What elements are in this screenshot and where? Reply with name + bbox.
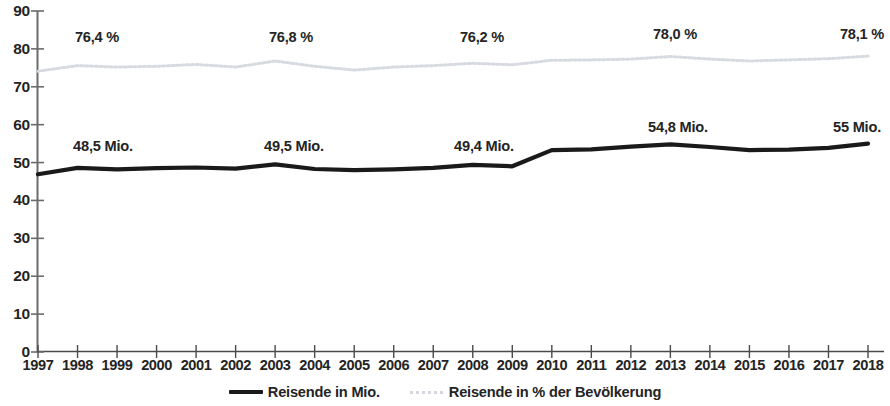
data-label: 49,5 Mio. [264, 139, 324, 154]
x-axis-tick-label: 2009 [497, 358, 528, 373]
y-axis-tick-label: 10 [4, 306, 30, 322]
y-axis-tick-label: 70 [4, 79, 30, 95]
dotted-line-marker-icon [410, 391, 444, 394]
x-axis-tick-label: 2015 [734, 358, 765, 373]
x-axis-tick-label: 2010 [536, 358, 567, 373]
x-axis-tick-label: 2007 [418, 358, 449, 373]
y-axis-tick-label: 50 [4, 155, 30, 171]
y-axis-tick-label: 20 [4, 268, 30, 284]
y-axis-tick-label: 90 [4, 3, 30, 19]
x-axis-tick-label: 1999 [102, 358, 133, 373]
x-axis-tick-label: 2013 [655, 358, 686, 373]
y-axis-tick-label: 40 [4, 192, 30, 208]
x-axis-tick-label: 2000 [141, 358, 172, 373]
x-axis-tick-label: 2003 [260, 358, 291, 373]
x-axis-tick-label: 2006 [378, 358, 409, 373]
x-axis-tick-label: 2008 [457, 358, 488, 373]
data-label: 76,4 % [75, 30, 119, 45]
x-axis-tick-label: 1997 [23, 358, 54, 373]
data-label: 78,0 % [653, 27, 697, 42]
x-axis-tick-label: 2001 [181, 358, 212, 373]
x-axis-tick-label: 2016 [774, 358, 805, 373]
x-axis-tick-label: 2018 [853, 358, 884, 373]
data-label: 54,8 Mio. [648, 120, 708, 135]
legend-item-label: Reisende in % der Bevölkerung [448, 384, 661, 400]
data-label: 76,8 % [269, 30, 313, 45]
legend-item-label: Reisende in Mio. [267, 384, 380, 400]
x-axis-tick-label: 2005 [339, 358, 370, 373]
solid-line-marker-icon [229, 390, 263, 394]
data-label: 55 Mio. [833, 120, 881, 135]
series-line-percent [38, 56, 868, 71]
x-axis-tick-label: 2017 [813, 358, 844, 373]
legend-item-millions[interactable]: Reisende in Mio. [229, 384, 380, 400]
chart-container: 9080706050403020100 19971998199920002001… [0, 0, 890, 406]
x-axis-tick-label: 2012 [615, 358, 646, 373]
y-axis-tick-label: 80 [4, 41, 30, 57]
data-label: 49,4 Mio. [454, 139, 514, 154]
chart-legend: Reisende in Mio. Reisende in % der Bevöl… [0, 384, 890, 400]
y-axis-tick-labels: 9080706050403020100 [0, 0, 30, 406]
legend-item-percent[interactable]: Reisende in % der Bevölkerung [410, 384, 661, 400]
series-line-millions [38, 144, 868, 175]
x-axis-tick-label: 1998 [62, 358, 93, 373]
data-label: 48,5 Mio. [73, 139, 133, 154]
x-axis-tick-label: 2014 [694, 358, 725, 373]
y-axis-tick-label: 30 [4, 230, 30, 246]
x-axis-tick-label: 2002 [220, 358, 251, 373]
y-axis-tick-label: 60 [4, 117, 30, 133]
chart-plot-area [0, 0, 890, 406]
data-label: 76,2 % [460, 30, 504, 45]
x-axis-tick-label: 2004 [299, 358, 330, 373]
data-label: 78,1 % [840, 27, 884, 42]
x-axis-tick-label: 2011 [576, 358, 606, 373]
